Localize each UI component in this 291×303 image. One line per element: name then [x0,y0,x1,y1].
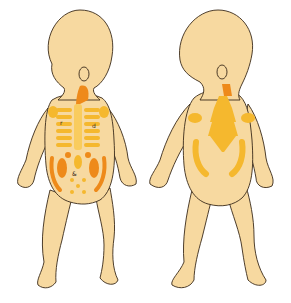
infant-diagram: r d & [0,0,291,303]
label-d: d [92,122,96,129]
label-amp: & [72,170,77,177]
illustration: r d & [0,0,291,303]
back-figure [150,10,273,288]
